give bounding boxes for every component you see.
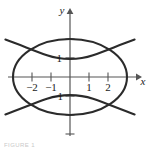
figure-caption: FIGURE 1 bbox=[4, 141, 74, 150]
x-tick-label-1: 1 bbox=[86, 81, 92, 93]
x-axis-label: x bbox=[140, 75, 146, 87]
y-tick-label-1: 1 bbox=[57, 52, 63, 64]
y-axis-arrowhead bbox=[67, 8, 74, 14]
coordinate-plot: −2 −1 1 2 1 −1 x y bbox=[0, 0, 150, 152]
y-tick-label-minus1: −1 bbox=[51, 90, 63, 102]
figure-container: −2 −1 1 2 1 −1 x y FIGURE 1 bbox=[0, 0, 150, 152]
y-axis-label: y bbox=[59, 4, 65, 16]
x-tick-label-2: 2 bbox=[105, 81, 111, 93]
x-tick-label-minus2: −2 bbox=[26, 81, 38, 93]
